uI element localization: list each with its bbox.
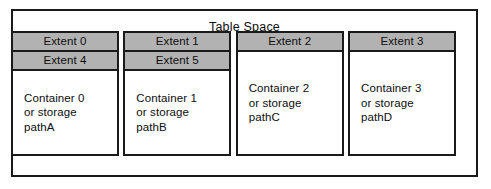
container-body-3: Container 3 or storage pathD	[350, 52, 454, 154]
container-label-2: Container 2 or storage pathC	[249, 81, 310, 125]
extent-cell-0-0: Extent 0	[13, 33, 117, 52]
container-box-0: Extent 0 Extent 4 Container 0 or storage…	[11, 31, 119, 156]
extent-cell-1-0: Extent 1	[125, 33, 229, 52]
container-box-1: Extent 1 Extent 5 Container 1 or storage…	[123, 31, 231, 156]
container-body-0: Container 0 or storage pathA	[13, 71, 117, 154]
container-label-3: Container 3 or storage pathD	[361, 81, 422, 125]
container-label-1: Container 1 or storage pathB	[136, 91, 197, 135]
container-label-0: Container 0 or storage pathA	[24, 91, 85, 135]
extent-cell-3-0: Extent 3	[350, 33, 454, 52]
container-box-3: Extent 3 Container 3 or storage pathD	[348, 31, 456, 156]
containers-row: Extent 0 Extent 4 Container 0 or storage…	[11, 31, 456, 156]
container-body-2: Container 2 or storage pathC	[238, 52, 342, 154]
extent-cell-0-1: Extent 4	[13, 52, 117, 71]
container-body-1: Container 1 or storage pathB	[125, 71, 229, 154]
container-box-2: Extent 2 Container 2 or storage pathC	[236, 31, 344, 156]
extent-cell-2-0: Extent 2	[238, 33, 342, 52]
extent-cell-1-1: Extent 5	[125, 52, 229, 71]
